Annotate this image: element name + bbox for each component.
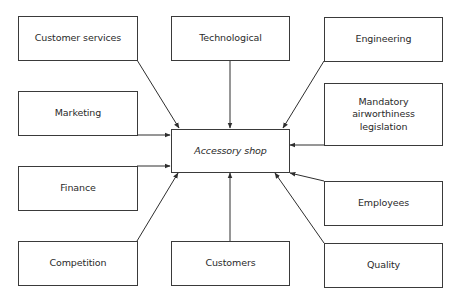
- node-competition: Competition: [18, 241, 138, 286]
- node-customers: Customers: [171, 241, 290, 286]
- edge-quality: [275, 173, 324, 243]
- node-quality: Quality: [324, 243, 443, 288]
- node-accessory-shop: Accessory shop: [171, 129, 290, 173]
- center-label: Accessory shop: [194, 145, 266, 158]
- node-label-line: Mandatory: [358, 96, 408, 109]
- node-label: Marketing: [55, 107, 101, 120]
- node-label: Competition: [49, 257, 106, 270]
- node-employees: Employees: [324, 181, 443, 226]
- node-label: Customers: [205, 257, 255, 270]
- node-technological: Technological: [171, 16, 290, 61]
- edge-competition: [137, 173, 178, 241]
- edge-engineering: [283, 61, 324, 128]
- edge-customer-services: [137, 60, 179, 128]
- node-label: Finance: [60, 182, 96, 195]
- node-finance: Finance: [18, 166, 138, 211]
- node-customer-services: Customer services: [18, 16, 138, 61]
- edge-employees: [290, 173, 324, 181]
- node-label: Customer services: [35, 32, 121, 45]
- node-label-line: legislation: [360, 121, 408, 134]
- node-label: Employees: [358, 197, 409, 210]
- node-engineering: Engineering: [324, 17, 443, 62]
- node-label-line: airworthiness: [352, 108, 415, 121]
- node-marketing: Marketing: [18, 91, 138, 136]
- node-label: Quality: [367, 259, 400, 272]
- node-mandatory-airworthiness-legislation: Mandatory airworthiness legislation: [324, 83, 443, 146]
- node-label: Engineering: [356, 33, 412, 46]
- node-label: Technological: [199, 32, 262, 45]
